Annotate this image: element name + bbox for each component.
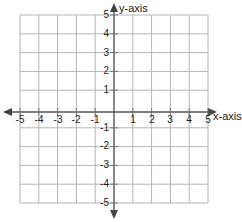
- y-tick-label: -1: [95, 122, 109, 133]
- y-tick-label: 2: [95, 65, 109, 76]
- x-tick-label: -2: [67, 114, 85, 125]
- coordinate-plane-figure: y-axis x-axis -5 -4 -3 -2 -1 1 2 3 4 5 5…: [0, 0, 242, 222]
- x-tick-label: -3: [49, 114, 67, 125]
- x-tick-label: -5: [11, 114, 29, 125]
- x-tick-label: 5: [199, 114, 217, 125]
- y-axis-arrow-down: [110, 210, 118, 219]
- x-tick-label: 1: [124, 114, 142, 125]
- y-tick-label: 5: [95, 9, 109, 20]
- y-tick-label: -4: [95, 178, 109, 189]
- y-axis-label: y-axis: [119, 2, 148, 14]
- y-tick-label: 4: [95, 28, 109, 39]
- x-tick-label: 2: [143, 114, 161, 125]
- coordinate-grid-canvas: [0, 0, 242, 222]
- y-axis-arrow-up: [110, 3, 118, 12]
- x-tick-label: 3: [161, 114, 179, 125]
- y-axis-line: [110, 3, 118, 219]
- y-tick-label: -5: [95, 197, 109, 208]
- y-tick-label: -3: [95, 159, 109, 170]
- y-tick-label: 1: [95, 84, 109, 95]
- x-axis-label: x-axis: [213, 110, 242, 122]
- y-tick-label: -2: [95, 140, 109, 151]
- x-tick-label: 4: [180, 114, 198, 125]
- y-tick-label: 3: [95, 47, 109, 58]
- x-tick-label: -4: [30, 114, 48, 125]
